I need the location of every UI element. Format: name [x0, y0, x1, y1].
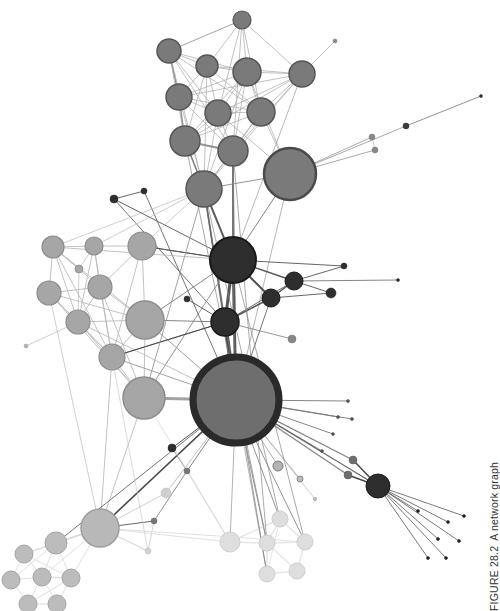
graph-node [272, 511, 288, 527]
graph-node [347, 400, 350, 403]
graph-node [326, 288, 336, 298]
graph-node [141, 188, 147, 194]
graph-node [88, 275, 112, 299]
graph-node [151, 518, 157, 524]
graph-node [19, 595, 37, 611]
graph-node [397, 279, 400, 282]
graph-node [220, 532, 240, 552]
graph-node [344, 471, 352, 479]
graph-node [45, 532, 67, 554]
graph-node [193, 357, 279, 443]
graph-node [480, 95, 483, 98]
graph-node [349, 456, 357, 464]
graph-node [123, 377, 165, 419]
graph-node [264, 148, 316, 200]
graph-node [314, 498, 317, 501]
graph-node [447, 521, 450, 524]
graph-node [62, 569, 80, 587]
graph-node [288, 335, 296, 343]
graph-node [321, 450, 324, 453]
graph-node [262, 289, 280, 307]
graph-node [196, 55, 218, 77]
graph-node [168, 444, 176, 452]
graph-node [427, 557, 430, 560]
figure-caption: FIGURE 28.2A network graph [488, 462, 500, 611]
graph-node [218, 136, 248, 166]
graph-edge [406, 96, 481, 126]
graph-edge [294, 280, 398, 281]
graph-node [297, 534, 313, 550]
graph-edge [148, 521, 154, 551]
graph-node [99, 344, 125, 370]
graph-node [403, 123, 409, 129]
graph-node [2, 571, 20, 589]
graph-edge [53, 189, 204, 247]
graph-edge [154, 471, 187, 521]
graph-node [85, 237, 103, 255]
graph-node [289, 563, 305, 579]
graph-node [369, 134, 375, 140]
graph-node [210, 237, 256, 283]
graph-node [161, 488, 171, 498]
graph-node [75, 265, 83, 273]
graph-node [211, 308, 239, 336]
graph-node [170, 126, 200, 156]
graph-node [24, 344, 28, 348]
graph-node [128, 232, 156, 260]
graph-edge [378, 486, 428, 558]
graph-node [417, 510, 420, 513]
graph-edge [233, 151, 267, 543]
graph-node [205, 100, 231, 126]
graph-edge [144, 189, 204, 398]
graph-node [273, 461, 283, 471]
graph-node [66, 310, 90, 334]
graph-node [184, 296, 190, 302]
graph-node [463, 515, 466, 518]
graph-node [42, 236, 64, 258]
graph-node [110, 195, 118, 203]
graph-node [332, 433, 335, 436]
graph-edge [114, 191, 144, 199]
graph-node [366, 474, 390, 498]
graph-edge [378, 486, 446, 558]
graph-node [126, 301, 164, 339]
graph-node [341, 263, 347, 269]
graph-node [259, 535, 275, 551]
graph-node [233, 58, 261, 86]
graph-edge [100, 357, 112, 528]
graph-node [289, 61, 315, 87]
graph-node [337, 416, 340, 419]
graph-node [351, 418, 354, 421]
graph-node [445, 557, 448, 560]
graph-node [333, 39, 337, 43]
graph-node [145, 548, 151, 554]
graph-node [247, 98, 275, 126]
graph-node [33, 568, 51, 586]
graph-node [37, 281, 61, 305]
graph-node [437, 538, 440, 541]
graph-node [81, 509, 119, 547]
graph-edge [378, 486, 459, 541]
graph-node [458, 540, 461, 543]
graph-node [233, 11, 251, 29]
graph-node [15, 545, 33, 563]
graph-node [48, 595, 66, 611]
graph-node [285, 272, 303, 290]
figure-caption-text: A network graph [488, 462, 500, 541]
graph-node [259, 566, 275, 582]
graph-edge [378, 486, 464, 516]
graph-node [184, 468, 190, 474]
graph-node [297, 476, 303, 482]
figure-number: FIGURE 28.2 [488, 546, 500, 611]
graph-node [166, 84, 192, 110]
graph-node [186, 171, 222, 207]
graph-node [372, 147, 378, 153]
graph-node [157, 39, 181, 63]
